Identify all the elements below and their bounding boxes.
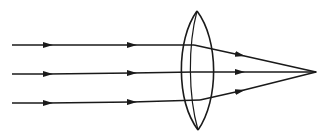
ray-top [12,45,316,72]
lens-edge-inner [190,11,198,130]
lens-front-surface [181,11,198,130]
lens-back-surface [197,11,214,130]
light-rays [12,45,316,103]
ray-middle [12,72,316,74]
focal-point [315,71,317,73]
ray-bottom [12,72,316,103]
convex-lens [181,11,213,130]
lens-ray-diagram [0,0,328,138]
